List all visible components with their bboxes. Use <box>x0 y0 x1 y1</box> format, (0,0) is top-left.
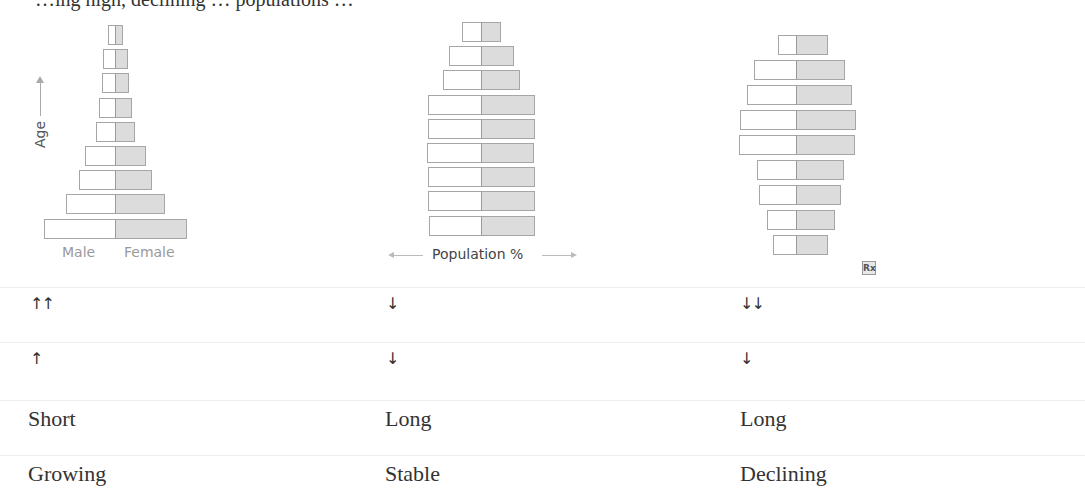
cut-off-caption: …ing high, declining … populations … <box>0 0 1085 6</box>
row3-col1: Short <box>28 406 76 432</box>
male-bar <box>66 194 116 214</box>
male-bar <box>428 119 482 139</box>
male-bar <box>79 170 116 190</box>
male-bar <box>429 216 482 236</box>
male-bar <box>739 135 797 155</box>
male-bar <box>99 98 116 118</box>
male-bar <box>759 185 797 205</box>
female-bar <box>797 110 856 130</box>
male-bar <box>85 146 116 166</box>
male-bar <box>754 60 797 80</box>
age-arrow-icon <box>36 76 44 83</box>
male-bar <box>428 167 482 187</box>
male-bar <box>747 85 797 105</box>
female-bar <box>116 219 187 239</box>
female-bar <box>797 85 852 105</box>
age-arrow-line <box>40 82 41 116</box>
table-row-2: ↑ ↓ ↓ <box>0 342 1085 391</box>
female-bar <box>116 194 165 214</box>
female-bar <box>482 95 535 115</box>
female-bar <box>116 98 132 118</box>
female-bar <box>116 122 135 142</box>
row3-col2: Long <box>385 406 431 432</box>
female-bar <box>482 46 514 66</box>
row4-col1: Growing <box>28 461 106 487</box>
female-bar <box>482 70 520 90</box>
male-bar <box>96 122 116 142</box>
male-bar <box>427 143 482 163</box>
row1-col1: ↑↑ <box>30 294 53 313</box>
rx-icon: Rx <box>862 261 876 275</box>
male-bar <box>428 95 482 115</box>
row4-col3: Declining <box>740 461 827 487</box>
population-arrow-line-right <box>542 255 572 256</box>
male-bar <box>428 191 482 211</box>
male-bar <box>449 46 482 66</box>
male-bar <box>443 70 482 90</box>
female-bar <box>482 216 535 236</box>
female-bar <box>797 35 828 55</box>
male-bar <box>462 22 482 42</box>
male-bar <box>773 235 797 255</box>
female-bar <box>116 25 123 45</box>
table-row-1: ↑↑ ↓ ↓↓ <box>0 287 1085 336</box>
row2-col1: ↑ <box>30 349 41 368</box>
female-bar <box>797 185 841 205</box>
female-label: Female <box>124 244 175 260</box>
age-axis-label: Age <box>32 121 48 148</box>
male-bar <box>740 110 797 130</box>
row2-col3: ↓ <box>740 349 751 368</box>
female-bar <box>482 22 501 42</box>
male-bar <box>44 219 116 239</box>
male-bar <box>767 210 797 230</box>
male-bar <box>102 73 116 93</box>
row4-col2: Stable <box>385 461 440 487</box>
female-bar <box>116 146 146 166</box>
female-bar <box>797 235 828 255</box>
male-bar <box>103 49 116 69</box>
population-axis-label: Population % <box>432 246 523 262</box>
row1-col3: ↓↓ <box>740 294 763 313</box>
female-bar <box>482 143 534 163</box>
right-arrow-icon <box>571 252 577 258</box>
row1-col2: ↓ <box>386 294 397 313</box>
population-arrow-line-left <box>393 255 423 256</box>
table-row-3: Short Long Long <box>0 400 1085 449</box>
female-bar <box>482 167 535 187</box>
male-label: Male <box>62 244 95 260</box>
female-bar <box>482 119 535 139</box>
female-bar <box>116 170 152 190</box>
row3-col3: Long <box>740 406 786 432</box>
female-bar <box>797 160 844 180</box>
row2-col2: ↓ <box>386 349 397 368</box>
female-bar <box>797 210 835 230</box>
female-bar <box>116 49 128 69</box>
male-bar <box>108 25 116 45</box>
female-bar <box>116 73 129 93</box>
female-bar <box>797 135 855 155</box>
female-bar <box>797 60 845 80</box>
male-bar <box>757 160 797 180</box>
male-bar <box>778 35 797 55</box>
female-bar <box>482 191 535 211</box>
table-row-4: Growing Stable Declining <box>0 455 1085 493</box>
